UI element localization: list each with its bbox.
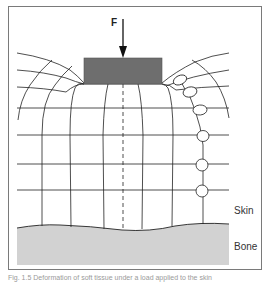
cell-chain <box>172 73 209 224</box>
skin-label: Skin <box>234 205 253 216</box>
figure-caption: Fig. 1.5 Deformation of soft tissue unde… <box>8 274 212 281</box>
vertical-grid-lines <box>18 60 229 229</box>
cell <box>196 159 208 171</box>
cell <box>196 185 208 197</box>
force-arrow <box>119 19 127 58</box>
cell <box>193 104 208 115</box>
cell <box>197 131 209 142</box>
indenter-block <box>84 58 162 84</box>
tissue-deformation-diagram <box>0 0 271 282</box>
cell <box>172 73 188 87</box>
bone-layer <box>17 223 229 265</box>
bone-label: Bone <box>234 241 257 252</box>
force-label: F <box>111 17 117 28</box>
